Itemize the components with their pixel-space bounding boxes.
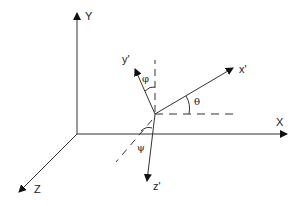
psi-label: ψ	[137, 143, 145, 153]
z-axis	[19, 134, 77, 192]
phi-arc	[145, 87, 155, 91]
phi-label: φ	[142, 74, 149, 84]
y-prime-label: y'	[122, 54, 130, 65]
theta-arc	[186, 96, 190, 114]
x-axis-label: X	[276, 117, 283, 128]
coordinate-diagram	[0, 0, 299, 206]
x-prime-label: x'	[239, 64, 247, 75]
z-prime-label: z'	[153, 181, 161, 192]
y-axis-label: Y	[85, 11, 92, 22]
x-prime-axis	[155, 68, 233, 114]
depth-reference-dashed	[116, 120, 152, 162]
z-axis-label: Z	[34, 184, 41, 195]
theta-label: θ	[194, 97, 200, 107]
